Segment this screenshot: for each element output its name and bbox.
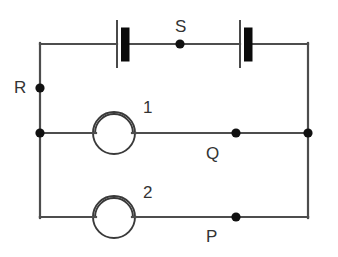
node-dot-right-middle	[303, 128, 312, 137]
node-dot-R	[35, 83, 44, 92]
node-dot-P	[231, 212, 240, 221]
lamp-2-icon	[93, 196, 136, 238]
node-dot-left-middle	[35, 128, 44, 137]
label-node-P: P	[206, 228, 217, 245]
battery-cell-left-icon	[117, 20, 129, 68]
label-lamp-1: 1	[143, 99, 152, 116]
label-lamp-2: 2	[143, 184, 152, 201]
lamp-2-envelope	[93, 196, 135, 238]
node-dot-Q	[231, 128, 240, 137]
lamp-1-icon	[93, 112, 136, 154]
label-node-Q: Q	[206, 145, 219, 162]
circuit-diagram: R S Q P 1 2	[0, 0, 338, 257]
label-node-R: R	[14, 79, 26, 96]
battery-cell-right-icon	[240, 20, 252, 68]
circuit-schematic-canvas	[0, 0, 338, 257]
cell-right-short-plate	[245, 28, 253, 61]
wire-group-outer-loop	[40, 43, 308, 218]
lamp-1-envelope	[93, 112, 135, 154]
node-dot-S	[175, 39, 184, 48]
label-node-S: S	[175, 18, 186, 35]
cell-left-short-plate	[122, 28, 130, 61]
node-dot-group	[35, 39, 312, 221]
